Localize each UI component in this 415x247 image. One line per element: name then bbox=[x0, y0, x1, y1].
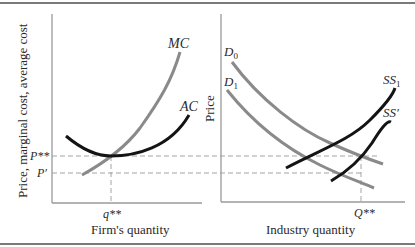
ss1-label: SS1 bbox=[383, 72, 401, 89]
firm-x-label: Firm's quantity bbox=[91, 222, 170, 237]
mc-label: MC bbox=[167, 36, 190, 51]
d0-curve bbox=[232, 62, 383, 164]
diagram: MC AC P** P′ q** Firm's quantity Price, … bbox=[0, 0, 415, 247]
ss-prime-label: SS′ bbox=[383, 105, 399, 120]
firm-panel: MC AC P** P′ q** Firm's quantity Price, … bbox=[15, 14, 380, 237]
mc-curve bbox=[82, 52, 180, 175]
d0-label: D0 bbox=[223, 44, 238, 61]
firm-y-label: Price, marginal cost, average cost bbox=[15, 23, 30, 198]
d1-label: D1 bbox=[223, 74, 238, 91]
ac-label: AC bbox=[179, 99, 199, 114]
ac-curve bbox=[66, 115, 189, 156]
Q-star-label: Q** bbox=[354, 206, 375, 220]
industry-panel: D0 D1 SS1 SS′ Q** Industry quantity Pric… bbox=[202, 14, 405, 237]
industry-y-label: Price bbox=[202, 95, 217, 122]
industry-x-label: Industry quantity bbox=[266, 222, 356, 237]
q-star-label: q** bbox=[103, 207, 121, 221]
p-star-label: P** bbox=[29, 149, 49, 163]
p-prime-label: P′ bbox=[36, 166, 47, 180]
